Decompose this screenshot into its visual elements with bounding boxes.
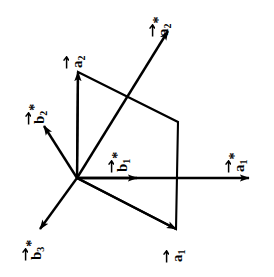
vector-label-symbol-a1star: a (232, 165, 247, 173)
vector-label-symbol-a2: a (70, 61, 85, 69)
vector-label-symbol-b1star: b (115, 164, 130, 172)
vector-label-star-b3star: * (24, 240, 39, 247)
vector-label-a2: a2 (70, 56, 87, 69)
vector-label-a1: a1 (170, 250, 187, 263)
vector-label-b3star: b3* (25, 240, 46, 260)
vector-label-a1star: a1* (228, 153, 249, 173)
vector-label-symbol-b2star: b (32, 116, 47, 124)
vector-arrow-a1 (77, 178, 176, 229)
vector-label-star-b1star: * (110, 152, 125, 159)
vector-label-star-a1star: * (227, 153, 242, 160)
vector-arrow-b2star (44, 126, 77, 178)
vector-diagram-canvas (0, 0, 274, 277)
vector-arrow-a2 (77, 72, 78, 178)
vector-accent-icon-a1 (162, 250, 169, 263)
vector-label-a2star: a2* (152, 17, 173, 37)
vector-label-symbol-a1: a (170, 255, 185, 263)
vector-label-symbol-a2star: a (156, 29, 171, 37)
vector-label-symbol-b3star: b (29, 252, 44, 260)
vector-accent-icon-b1star (107, 160, 114, 173)
vector-accent-icon-a1star (224, 160, 231, 173)
vector-accent-icon-b2star (24, 112, 31, 125)
vector-accent-icon-b3star (21, 248, 28, 261)
vector-label-b2star: b2* (28, 104, 49, 124)
vector-diagram-figure: a2a2*b2*b1*a1*b3*a1 (0, 0, 274, 277)
vector-label-star-b2star: * (27, 104, 42, 111)
vector-accent-icon-a2star (148, 24, 155, 37)
vector-arrow-b3star (40, 178, 77, 229)
vector-accent-icon-a2 (62, 56, 69, 69)
vector-label-star-a2star: * (151, 17, 166, 24)
vector-label-b1star: b1* (111, 152, 132, 172)
